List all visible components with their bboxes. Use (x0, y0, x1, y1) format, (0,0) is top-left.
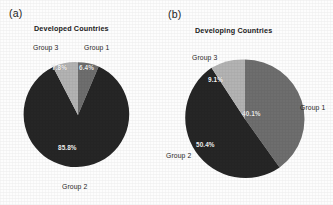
category-label-group2-developing: Group 2 (166, 152, 191, 159)
category-label-group1-developing: Group 1 (300, 104, 325, 111)
panel-letter-a: (a) (9, 7, 22, 19)
category-label-group1-developed: Group 1 (84, 44, 109, 51)
figure-canvas: (a) Developed Countries Group 3 Group 1 … (0, 0, 333, 205)
pie-svg-developing (183, 57, 307, 181)
panel-developed-countries: (a) Developed Countries Group 3 Group 1 … (0, 0, 166, 205)
value-label-group3-developed: 7.8% (52, 64, 67, 71)
value-label-group1-developing: 40.1% (242, 110, 261, 117)
category-label-group2-developed: Group 2 (62, 183, 87, 190)
panel-developing-countries: (b) Developing Countries Group 3 Group 1… (166, 0, 333, 205)
value-label-group1-developed: 6.4% (79, 64, 94, 71)
pie-chart-developed (23, 60, 133, 170)
value-label-group2-developed: 85.8% (58, 144, 77, 151)
pie-svg-developed (23, 60, 133, 170)
value-label-group3-developing: 9.1% (208, 76, 223, 83)
panel-letter-b: (b) (168, 8, 181, 20)
category-label-group3-developing: Group 3 (192, 54, 217, 61)
chart-title-developed: Developed Countries (34, 24, 109, 33)
value-label-group2-developing: 50.4% (196, 141, 215, 148)
category-label-group3-developed: Group 3 (33, 44, 58, 51)
pie-chart-developing (183, 57, 307, 181)
chart-title-developing: Developing Countries (195, 26, 272, 35)
